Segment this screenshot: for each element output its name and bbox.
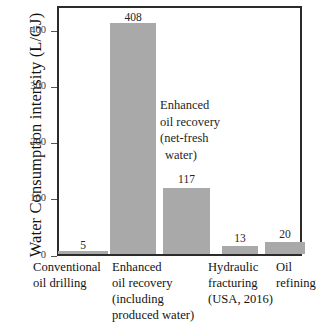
x-label-1-line-2: (including [112, 291, 194, 307]
x-label-0-line-1: oil drilling [33, 275, 101, 291]
annotation-line-0: Enhanced [160, 97, 268, 114]
y-axis-title: Water Consumption intensity (L/GJ) [26, 7, 46, 263]
x-label-1-line-3: produced water) [112, 307, 194, 323]
x-label-1-line-0: Enhanced [112, 259, 194, 275]
annotation-line-3: water) [160, 147, 268, 164]
x-label-oil-refining: Oil refining [276, 259, 316, 291]
x-label-1-line-1: oil recovery [112, 275, 194, 291]
x-label-4-line-1: refining [276, 275, 316, 291]
bar-value-label-0: 5 [58, 239, 108, 251]
annotation-line-2: (net-fresh [160, 130, 268, 147]
bar-value-label-4: 20 [263, 228, 307, 240]
bar-conventional-oil-drilling[interactable] [58, 251, 108, 254]
y-tick-label-400: 400 [30, 24, 46, 35]
bar-value-label-1: 408 [107, 11, 159, 23]
y-tick-label-100: 100 [30, 192, 46, 203]
bars-layer: 5 408 117 13 20 Enhanced oil recovery (n… [57, 6, 302, 256]
y-tick-label-300: 300 [30, 80, 46, 91]
x-label-4-line-0: Oil [276, 259, 316, 275]
annotation-line-1: oil recovery [160, 114, 268, 131]
bar-enhanced-oil-recovery-including-produced-water[interactable] [110, 23, 156, 254]
x-label-3-line-2: (USA, 2016) [208, 291, 273, 307]
bar-oil-refining[interactable] [265, 242, 305, 254]
x-label-3-line-0: Hydraulic [208, 259, 273, 275]
x-label-0-line-0: Conventional [33, 259, 101, 275]
x-label-3-line-1: fracturing [208, 275, 273, 291]
bar-chart-figure: Water Consumption intensity (L/GJ) 0 100… [0, 0, 329, 328]
y-tick-mark-0 [51, 256, 57, 257]
bar-hydraulic-fracturing[interactable] [222, 246, 258, 254]
plot-annotation-enhanced-oil-recovery: Enhanced oil recovery (net-fresh water) [160, 97, 268, 164]
x-label-enhanced-oil-recovery-including: Enhanced oil recovery (including produce… [112, 259, 194, 323]
bar-value-label-2: 117 [160, 173, 213, 185]
x-label-hydraulic-fracturing: Hydraulic fracturing (USA, 2016) [208, 259, 273, 307]
x-label-conventional-oil-drilling: Conventional oil drilling [33, 259, 101, 291]
y-tick-label-200: 200 [30, 136, 46, 147]
bar-value-label-3: 13 [220, 232, 260, 244]
bar-enhanced-oil-recovery-net-fresh-water[interactable] [163, 188, 210, 254]
